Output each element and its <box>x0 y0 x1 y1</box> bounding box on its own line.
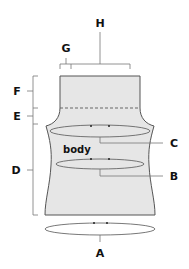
arrow-dot-c-left <box>90 125 92 127</box>
label-h: H <box>95 17 104 30</box>
body-silhouette <box>45 76 155 215</box>
label-d: D <box>11 164 20 177</box>
bracket-d <box>33 124 38 215</box>
arrow-dot-a-right <box>106 222 108 224</box>
ellipse-a <box>45 223 155 235</box>
label-a: A <box>96 247 105 260</box>
bracket-h <box>71 64 130 69</box>
arrow-dot-b-left <box>90 158 92 160</box>
label-e: E <box>13 110 21 123</box>
bracket-f <box>33 76 38 108</box>
arrow-dot-c-right <box>108 125 110 127</box>
body-measurement-diagram: H G F E D C B A body <box>0 0 189 269</box>
body-label: body <box>63 144 91 155</box>
bracket-g <box>60 64 71 69</box>
label-b: B <box>170 170 178 183</box>
arrow-dot-a-left <box>93 222 95 224</box>
label-c: C <box>170 137 178 150</box>
diagram-canvas: H G F E D C B A body <box>0 0 189 269</box>
arrow-dot-b-right <box>108 158 110 160</box>
label-g: G <box>61 42 70 55</box>
bracket-e <box>33 108 38 124</box>
label-f: F <box>13 85 21 98</box>
